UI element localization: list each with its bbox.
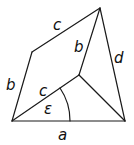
- diagram-canvas: c b b d c ε a: [0, 0, 134, 145]
- label-a: a: [58, 126, 67, 144]
- label-b-left: b: [6, 76, 16, 94]
- label-epsilon: ε: [44, 100, 52, 118]
- quadrilateral-diagram: c b b d c ε a: [0, 0, 134, 145]
- label-b-inner: b: [74, 38, 84, 56]
- label-c-top: c: [53, 16, 62, 34]
- edge-inner-to-right: [79, 75, 125, 121]
- edge-c-top: [32, 8, 100, 52]
- angle-epsilon-arc: [60, 88, 70, 121]
- label-d: d: [114, 49, 124, 67]
- label-c-inner: c: [39, 82, 48, 100]
